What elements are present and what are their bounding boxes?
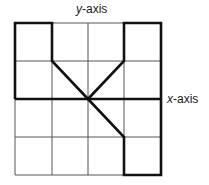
grid-diagram xyxy=(0,0,209,185)
